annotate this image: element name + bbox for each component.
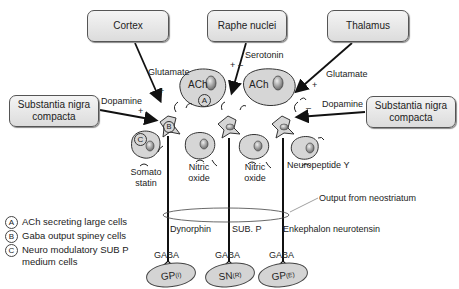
legend-mark-c: C <box>5 244 18 257</box>
legend-mark-b: B <box>5 230 18 243</box>
gaba-label-2: GABA <box>215 250 240 261</box>
neuropeptide-y-label: Neuropeptide Y <box>287 160 349 171</box>
cortex-label: Cortex <box>113 20 142 32</box>
substantia-nigra-right-label: Substantia nigra compacta <box>367 100 455 124</box>
marker-a-text: A <box>202 96 207 105</box>
substantia-nigra-right-box: Substantia nigra compacta <box>366 96 456 128</box>
legend-mark-a: A <box>5 216 18 229</box>
sub-p-label: SUB. P <box>232 224 262 235</box>
enkephalon-label: Enkephalon neurotensin <box>283 224 380 235</box>
target-gp-external-sub: (E) <box>286 270 295 278</box>
marker-c-text: C <box>138 135 144 144</box>
output-ellipse <box>163 208 289 222</box>
nitric-oxide-right-line1: Nitric <box>238 162 272 173</box>
legend-item-c: C Neuro modulatory SUB P medium cells <box>5 244 132 268</box>
somatostatin-line1: Somato <box>126 167 166 178</box>
serotonin-label: Serotonin <box>245 50 284 61</box>
legend-text-c: Neuro modulatory SUB P medium cells <box>22 244 132 268</box>
legend-item-b: B Gaba output spiney cells <box>5 230 132 244</box>
legend-item-a: A ACh secreting large cells <box>5 216 132 230</box>
somatostatin-label: Somato statin <box>126 167 166 189</box>
nitric-oxide-right-label: Nitric oxide <box>238 162 272 184</box>
nitric-oxide-right-line2: oxide <box>238 173 272 184</box>
nitric-oxide-left-line1: Nitric <box>182 162 216 173</box>
legend: A ACh secreting large cells B Gaba outpu… <box>5 216 132 268</box>
sign-minus: – <box>238 60 243 71</box>
legend-text-a: ACh secreting large cells <box>22 216 127 228</box>
target-gp-external-main: GP <box>271 269 287 281</box>
legend-text-b: Gaba output spiney cells <box>22 230 126 242</box>
sign-plus: + <box>159 86 164 97</box>
dopamine-left-label: Dopamine <box>101 96 142 107</box>
glutamate-right-label: Glutamate <box>326 69 368 80</box>
thalamus-box: Thalamus <box>327 10 409 42</box>
raphe-nuclei-label: Raphe nuclei <box>218 20 276 32</box>
sign-plus: + <box>138 106 143 117</box>
target-sn-reticulata-sub: (R) <box>232 270 242 278</box>
nitric-oxide-left-label: Nitric oxide <box>182 162 216 184</box>
output-neostriatum-label: Output from neostriatum <box>319 193 416 204</box>
gaba-label-3: GABA <box>269 250 294 261</box>
sign-plus: + <box>230 60 235 71</box>
ach-right-label: ACh <box>249 79 268 90</box>
dynorphin-label: Dynorphin <box>170 224 211 235</box>
output-axons <box>168 136 283 262</box>
glutamate-left-label: Glutamate <box>148 67 190 78</box>
marker-b: B <box>163 121 175 133</box>
thalamus-label: Thalamus <box>346 20 390 32</box>
cortex-box: Cortex <box>87 10 169 42</box>
nitric-oxide-left-line2: oxide <box>182 173 216 184</box>
substantia-nigra-left-label: Substantia nigra compacta <box>10 99 98 123</box>
dopamine-right-label: Dopamine <box>322 99 363 110</box>
target-gp-internal-main: GP <box>160 269 176 281</box>
gaba-label-1: GABA <box>154 250 179 261</box>
substantia-nigra-left-box: Substantia nigra compacta <box>9 95 99 127</box>
sign-plus: + <box>312 80 317 91</box>
target-sn-reticulata-main: SN <box>218 269 233 281</box>
marker-c: C <box>134 133 147 146</box>
sign-minus: – <box>306 103 311 114</box>
ach-left-label: ACh <box>188 79 207 90</box>
marker-b-text: B <box>166 122 171 131</box>
target-gp-internal-sub: (I) <box>175 270 182 278</box>
somatostatin-line2: statin <box>126 178 166 189</box>
marker-a: A <box>198 94 211 107</box>
raphe-nuclei-box: Raphe nuclei <box>207 10 287 42</box>
